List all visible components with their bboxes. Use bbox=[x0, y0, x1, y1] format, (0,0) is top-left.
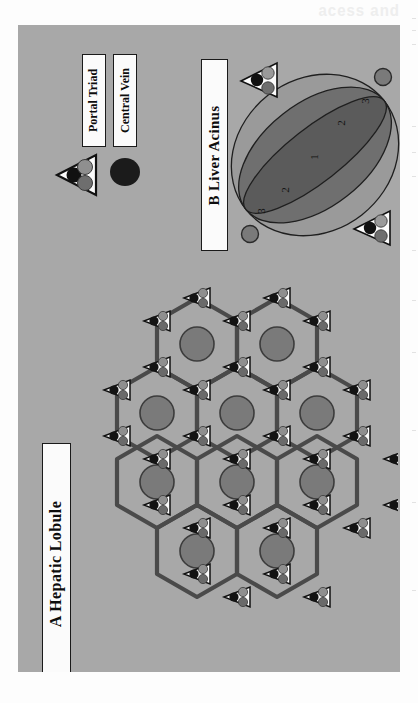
acinus-zone-label-2a: 2 bbox=[335, 120, 347, 126]
acinus-zone-label-1: 1 bbox=[308, 154, 320, 160]
legend-label-portal-triad: Portal Triad bbox=[82, 54, 106, 147]
acinus-portal-triad-top bbox=[241, 63, 277, 97]
portal-triad-icon bbox=[54, 152, 100, 198]
portal-triad bbox=[384, 449, 398, 469]
lobule-hexagon bbox=[237, 505, 317, 597]
portal-triad bbox=[224, 587, 250, 607]
acinus-zone-label-3a: 3 bbox=[359, 98, 371, 104]
acinus-central-vein-top bbox=[375, 69, 392, 86]
panel-a-title: A Hepatic Lobule bbox=[48, 501, 66, 627]
panel-b-title: B Liver Acinus bbox=[206, 105, 223, 205]
acinus-central-vein-bottom bbox=[242, 226, 259, 243]
portal-triad bbox=[304, 587, 330, 607]
figure-panel: Portal Triad Central Vein B Liver Acinus bbox=[18, 25, 400, 672]
lobule-hexagon bbox=[157, 505, 237, 597]
hepatic-lobule-diagram bbox=[76, 287, 398, 672]
scanned-page: acess and Portal Triad Central Vein B Li… bbox=[0, 0, 418, 703]
liver-acinus-diagram: 1 2 2 3 3 bbox=[223, 53, 400, 258]
legend-label-central-vein: Central Vein bbox=[113, 54, 137, 147]
legend-symbols bbox=[54, 150, 144, 212]
lobule-hexagon-grid bbox=[117, 298, 357, 597]
acinus-zone-label-3b: 3 bbox=[255, 208, 267, 214]
legend-central-vein-text: Central Vein bbox=[118, 68, 133, 133]
scan-header-text: acess and bbox=[318, 2, 400, 20]
panel-a-title-plate: A Hepatic Lobule bbox=[42, 443, 71, 672]
portal-triad bbox=[344, 518, 370, 538]
central-vein-icon bbox=[110, 158, 140, 186]
lobule-portal-triads bbox=[104, 288, 398, 607]
acinus-zone-label-2b: 2 bbox=[279, 187, 291, 193]
legend-portal-triad-text: Portal Triad bbox=[87, 69, 102, 132]
portal-triad bbox=[384, 495, 398, 515]
scan-edge-marks bbox=[411, 0, 417, 703]
